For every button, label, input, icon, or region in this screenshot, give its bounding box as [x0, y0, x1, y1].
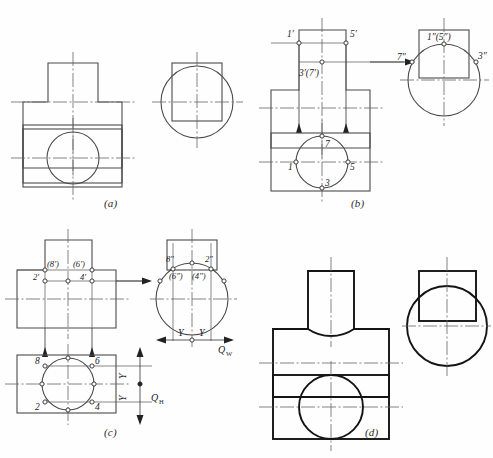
figure-c-side-center-lines: [150, 229, 237, 347]
figure-b-label-1p: 1′: [287, 29, 295, 39]
figure-c-caption: (c): [104, 426, 117, 438]
figure-c-label-y-side-left: Y: [178, 327, 185, 338]
figure-c-projection-arrows: [45, 328, 92, 351]
figure-d-side-center-lines: [402, 257, 491, 377]
figure-b: 1′ 5′ 3′(7′) 1″(5″) 7″ 3″: [247, 0, 493, 229]
figure-c-label-y-top-lower: Y: [117, 394, 128, 401]
figure-b-label-1pp5pp: 1″(5″): [427, 32, 451, 43]
figure-c-label-4: 4: [95, 402, 100, 412]
drawing-sheet: (a): [0, 0, 493, 458]
figure-c-label-2: 2: [35, 402, 40, 412]
figure-c-qw-origin-marker: [190, 338, 194, 342]
svg-text:W: W: [226, 350, 233, 357]
figure-b-label-3: 3: [324, 178, 330, 188]
svg-text:H: H: [159, 398, 164, 405]
figure-b-caption: (b): [351, 197, 364, 209]
figure-b-arrowhead-right: [343, 123, 349, 133]
figure-b-label-3p7p: 3′(7′): [298, 68, 319, 79]
figure-c-label-6pp: (6″): [169, 271, 183, 281]
figure-c-label-qh: Q H: [151, 392, 164, 405]
figure-c-qw-arrow-left: [156, 337, 166, 344]
figure-c-label-2p: 2′: [33, 272, 39, 282]
figure-c-label-2pp: 2″: [205, 254, 213, 264]
figure-b-label-7pp: 7″: [397, 52, 407, 62]
figure-c-label-qw: Q W: [218, 344, 233, 357]
figure-c-qw-arrow-right: [224, 337, 234, 344]
figure-c-front-center-lines: [5, 229, 129, 339]
figure-c-label-6: 6: [95, 356, 100, 366]
svg-text:Q: Q: [218, 344, 226, 355]
figure-b-front-view-outline: [271, 30, 370, 148]
figure-b-arrowhead-left: [296, 123, 302, 133]
figure-b-label-1: 1: [288, 162, 293, 172]
figure-d-caption: (d): [365, 426, 378, 438]
figure-d: (d): [247, 229, 493, 458]
figure-c-label-8p: (8′): [47, 259, 59, 269]
figure-b-front-point-markers: [297, 41, 348, 64]
figure-c-label-6p: (6′): [73, 259, 85, 269]
figure-c-label-8pp: 8″: [166, 254, 174, 264]
figure-c-front-view-outline: [17, 240, 116, 328]
figure-c-label-4pp: (4″): [192, 271, 206, 281]
figure-c-qh-arrow-bottom: [137, 415, 144, 425]
figure-a-top-view-center-lines: [11, 118, 135, 200]
figure-a-caption: (a): [104, 197, 117, 209]
figure-a: (a): [0, 0, 247, 229]
figure-c-label-8: 8: [35, 356, 40, 366]
figure-b-label-5: 5: [350, 162, 355, 172]
figure-d-front-center-lines: [259, 257, 403, 363]
figure-c-label-y-top-upper: Y: [117, 372, 128, 379]
figure-c-qh-arrow-top: [137, 347, 144, 357]
figure-c-qh-origin-marker: [138, 382, 142, 386]
figure-b-front-construction-lines: [271, 43, 404, 90]
figure-c-transfer-arrowhead: [142, 278, 152, 285]
figure-b-label-3pp: 3″: [477, 51, 488, 61]
figure-b-label-5p: 5′: [350, 29, 358, 39]
figure-c: (8′) (6′) 2′ 4′: [0, 229, 247, 458]
figure-c-label-4p: 4′: [80, 272, 86, 282]
figure-b-projection-arrows: [299, 90, 346, 127]
svg-text:Q: Q: [151, 392, 159, 403]
